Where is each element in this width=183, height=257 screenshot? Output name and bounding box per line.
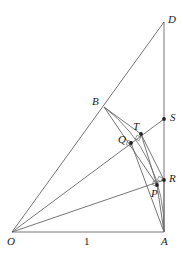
point-label-O: O (7, 236, 15, 247)
figure-canvas (0, 0, 183, 257)
point-label-P: P (151, 188, 158, 199)
point-label-B: B (92, 96, 99, 107)
point-label-R: R (169, 173, 176, 184)
point-dot-Q (129, 141, 133, 145)
point-dot-T (139, 132, 143, 136)
segment-ray-OR (12, 180, 164, 232)
point-label-Q: Q (118, 134, 126, 145)
segment-ray-OD (12, 22, 164, 232)
point-label-T: T (133, 121, 139, 132)
segment-chord-TR (141, 134, 164, 180)
point-label-A: A (161, 236, 168, 247)
point-label-S: S (170, 112, 176, 123)
point-dot-R (162, 178, 166, 182)
length-label-unit: 1 (84, 236, 90, 247)
right-angle-mark-at-R (157, 176, 162, 181)
point-label-D: D (168, 14, 176, 25)
geometry-figure: O A D B S T Q R P 1 (0, 0, 183, 257)
point-dot-S (162, 117, 166, 121)
